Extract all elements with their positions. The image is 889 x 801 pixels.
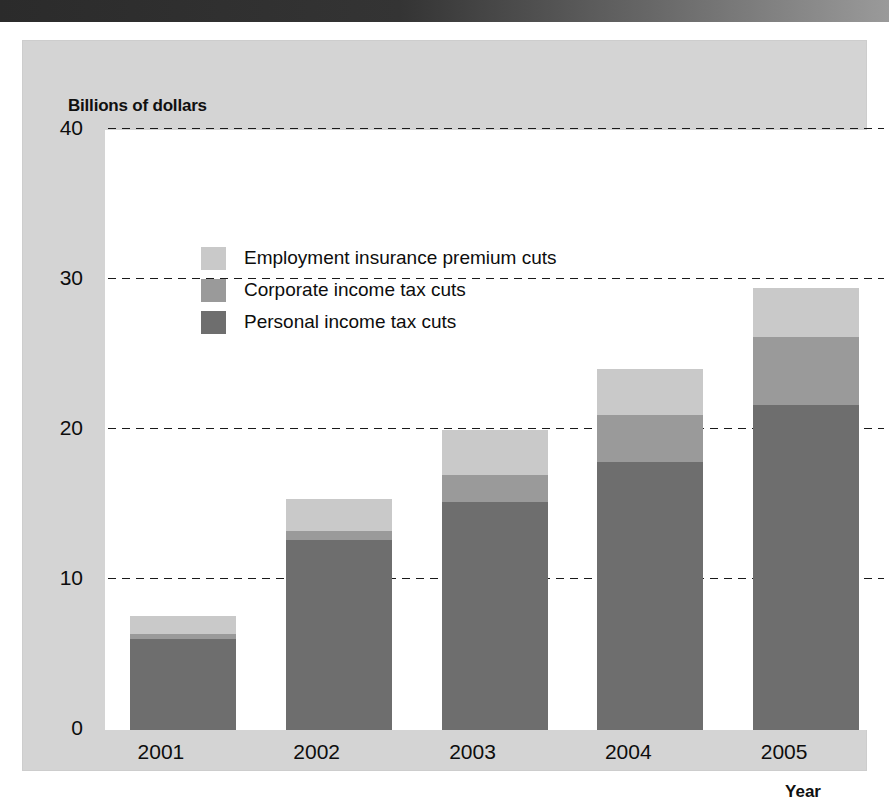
legend-item-personal[interactable]: Personal income tax cuts — [201, 306, 557, 338]
bar-2002[interactable] — [286, 130, 392, 730]
x-tick-label-2001: 2001 — [138, 740, 185, 764]
y-tick-label-10: 10 — [39, 566, 83, 590]
legend-swatch-icon — [201, 311, 226, 334]
y-tick-label-0: 0 — [39, 716, 83, 740]
bar-segment — [597, 462, 703, 731]
bar-2003[interactable] — [442, 130, 548, 730]
bar-segment — [130, 616, 236, 634]
bar-segment — [597, 369, 703, 416]
bar-segment — [753, 337, 859, 405]
x-tick-label-2003: 2003 — [449, 740, 496, 764]
bar-segment — [597, 415, 703, 462]
legend-item-employment_insurance[interactable]: Employment insurance premium cuts — [201, 242, 557, 274]
chart-legend: Employment insurance premium cutsCorpora… — [201, 242, 557, 338]
bar-segment — [130, 634, 236, 639]
figure-panel: Billions of dollars Employment insurance… — [22, 40, 867, 771]
y-tick-label-20: 20 — [39, 416, 83, 440]
bar-segment — [286, 499, 392, 531]
page-top-banner — [0, 0, 889, 22]
bar-segment — [753, 405, 859, 731]
bar-segment — [442, 475, 548, 502]
y-axis-title: Billions of dollars — [68, 96, 207, 116]
bar-segment — [130, 639, 236, 731]
legend-label: Corporate income tax cuts — [244, 279, 466, 301]
y-tick-label-40: 40 — [39, 116, 83, 140]
bar-2004[interactable] — [597, 130, 703, 730]
bar-segment — [286, 540, 392, 731]
bar-segment — [753, 288, 859, 338]
bar-segment — [442, 430, 548, 475]
bar-2001[interactable] — [130, 130, 236, 730]
legend-label: Employment insurance premium cuts — [244, 247, 557, 269]
x-tick-label-2002: 2002 — [293, 740, 340, 764]
legend-swatch-icon — [201, 279, 226, 302]
bar-segment — [286, 531, 392, 540]
legend-item-corporate[interactable]: Corporate income tax cuts — [201, 274, 557, 306]
legend-swatch-icon — [201, 247, 226, 270]
bar-2005[interactable] — [753, 130, 859, 730]
legend-label: Personal income tax cuts — [244, 311, 456, 333]
x-axis-title: Year — [785, 782, 821, 801]
x-tick-label-2005: 2005 — [761, 740, 808, 764]
plot-area: Employment insurance premium cutsCorpora… — [105, 130, 884, 730]
y-tick-label-30: 30 — [39, 266, 83, 290]
bar-segment — [442, 502, 548, 730]
x-tick-label-2004: 2004 — [605, 740, 652, 764]
